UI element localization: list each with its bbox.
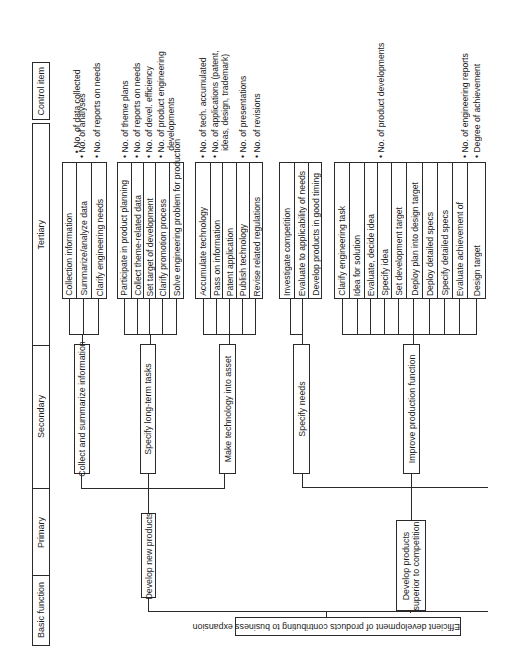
connector: [384, 299, 385, 334]
tertiary-item: Deploy detailed specs: [422, 162, 437, 299]
connector: [413, 299, 414, 334]
control-item: • No. of applications (patent, ideas, de…: [210, 40, 230, 158]
tertiary-item: Pass on information: [210, 162, 222, 299]
control-item: • No. of engineering reports: [460, 40, 470, 158]
secondary-technology-asset: Make technology into asset: [219, 344, 236, 474]
header-basic-function-label: Basic function: [36, 582, 46, 638]
connector: [370, 299, 371, 334]
primary-label: Develop new products: [144, 512, 154, 599]
tertiary-item: Specify idea: [377, 162, 391, 299]
connector: [411, 474, 412, 520]
connector: [357, 299, 358, 334]
connector: [290, 299, 291, 334]
tertiary-item: Evaluate achievement of: [452, 162, 467, 299]
connector: [459, 299, 460, 334]
tertiary-item: Summarize/analyze data: [76, 162, 91, 299]
connector: [176, 299, 177, 334]
header-secondary: Secondary: [32, 345, 50, 489]
connector: [69, 334, 99, 335]
control-item: • No. of devel. efficiency: [144, 58, 154, 158]
connector: [137, 299, 138, 334]
secondary-long-term-tasks: Specify long-term tasks: [140, 344, 156, 474]
tertiary-item: Idea for solution: [349, 162, 364, 299]
connector: [98, 299, 99, 334]
connector: [242, 299, 243, 334]
control-item: • No. of presentations: [238, 58, 248, 158]
connector: [149, 299, 150, 334]
tertiary-item: Collection information: [62, 162, 76, 299]
connector: [429, 299, 430, 334]
control-item: • No. of reports on needs: [92, 58, 102, 158]
connector: [216, 299, 217, 334]
connector: [203, 299, 204, 334]
connector: [150, 334, 151, 344]
tertiary-item: Solve engineering problem for production: [169, 162, 184, 299]
secondary-label: Collect and summarize information: [77, 341, 87, 476]
header-primary: Primary: [32, 488, 50, 576]
connector: [69, 299, 70, 334]
control-item: • No. of reports on needs: [132, 58, 142, 158]
basic-function-box: Efficient development of products contri…: [235, 617, 461, 636]
secondary-label: Make technology into asset: [223, 356, 233, 463]
tertiary-item: Accumulate technology: [195, 162, 210, 299]
tertiary-item: Revise related regulations: [249, 162, 263, 299]
header-basic-function: Basic function: [32, 575, 50, 646]
tertiary-item: Collect theme-related data: [131, 162, 143, 299]
tertiary-item: Patent application: [222, 162, 236, 299]
header-tertiary-label: Tertiary: [36, 220, 46, 250]
connector: [148, 598, 149, 611]
header-control-item-label: Control item: [36, 67, 46, 116]
connector: [224, 474, 225, 488]
control-item: • No. of theme plans: [120, 58, 130, 158]
tertiary-item: Deploy plan into design target: [406, 162, 422, 299]
connector: [162, 299, 163, 334]
secondary-specify-needs: Specify needs: [293, 344, 310, 474]
connector: [83, 299, 84, 334]
secondary-collect-summarize: Collect and summarize information: [74, 344, 90, 474]
control-item: • No. of analyses: [77, 58, 87, 158]
tertiary-item: Develop products in good timing: [308, 162, 322, 299]
tertiary-item: Clarify promotion process: [155, 162, 169, 299]
control-item: • No. of product developments: [376, 30, 386, 158]
connector: [302, 299, 303, 334]
connector: [342, 334, 477, 335]
tertiary-item: Specify detailed specs: [437, 162, 452, 299]
connector: [81, 488, 225, 489]
tertiary-item: Clarify engineering needs: [91, 162, 107, 299]
basic-function-label: Efficient development of products contri…: [236, 622, 460, 632]
tertiary-item: Evaluate to applicability of needs: [294, 162, 308, 299]
header-secondary-label: Secondary: [36, 395, 46, 438]
tertiary-item: Set target of development: [143, 162, 155, 299]
connector: [342, 299, 343, 334]
control-item: • Degree of achievement: [472, 40, 482, 158]
connector: [229, 299, 230, 334]
connector: [302, 487, 488, 488]
connector: [148, 474, 149, 514]
tertiary-item: Set development target: [391, 162, 406, 299]
connector: [148, 611, 488, 612]
connector: [398, 299, 399, 334]
primary-develop-new-products: Develop new products: [141, 513, 156, 598]
control-item: • No. of revisions: [252, 58, 262, 158]
connector: [229, 334, 230, 344]
tertiary-item: Investigate competition: [279, 162, 294, 299]
tertiary-item: Publish technology: [236, 162, 249, 299]
secondary-label: Specify needs: [297, 381, 307, 436]
connector: [444, 299, 445, 334]
primary-develop-superior-products: Develop products superior to competition: [396, 520, 426, 611]
connector: [413, 334, 414, 344]
tertiary-item: Design target: [467, 162, 486, 299]
primary-label: Develop products superior to competition: [401, 521, 421, 610]
connector: [302, 334, 303, 344]
connector: [476, 299, 477, 334]
header-control-item: Control item: [32, 62, 50, 120]
connector: [81, 474, 82, 488]
control-item: • No. of tech. accumulated: [198, 58, 208, 158]
header-primary-label: Primary: [36, 517, 46, 548]
secondary-label: Improve production function: [407, 355, 417, 464]
secondary-production-function: Improve production function: [403, 344, 420, 474]
connector: [302, 474, 303, 487]
header-tertiary: Tertiary: [32, 123, 50, 346]
tertiary-item: Participate in product planning: [117, 162, 131, 299]
connector: [255, 299, 256, 334]
